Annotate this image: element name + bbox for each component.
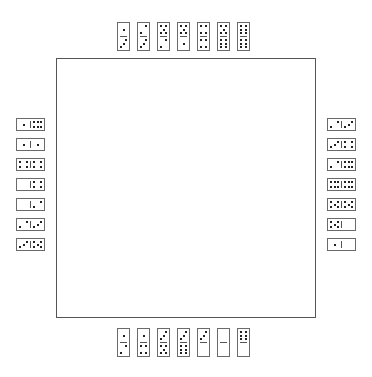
pip [33, 246, 35, 248]
domino-half-0 [342, 239, 355, 250]
domino-bottom-2-3-5[interactable] [157, 328, 170, 357]
pip [240, 29, 242, 31]
pip [344, 206, 346, 208]
pip [165, 331, 167, 333]
domino-half-3 [328, 139, 341, 150]
pip [337, 161, 339, 163]
pip [245, 39, 247, 41]
pip [245, 331, 247, 333]
domino-bottom-1-1-4[interactable] [137, 328, 150, 357]
pip [220, 25, 222, 27]
domino-right-5-5-0[interactable] [327, 218, 356, 231]
domino-right-6-1-0[interactable] [327, 238, 356, 251]
domino-top-4-4-4[interactable] [197, 22, 210, 51]
pip [180, 338, 182, 340]
pip [240, 331, 242, 333]
domino-right-3-6-6[interactable] [327, 178, 356, 191]
domino-half-0 [238, 343, 249, 356]
domino-right-2-2-6[interactable] [327, 158, 356, 171]
pip [33, 186, 35, 188]
pip [330, 146, 332, 148]
pip [245, 46, 247, 48]
pip [344, 161, 346, 163]
domino-bottom-4-3-0[interactable] [197, 328, 210, 357]
pip [40, 126, 42, 128]
domino-half-4 [31, 159, 44, 170]
pip [145, 352, 147, 354]
game-board[interactable] [56, 58, 316, 318]
domino-top-5-5-6[interactable] [217, 22, 230, 51]
domino-half-6 [342, 159, 355, 170]
domino-bottom-6-6-0[interactable] [237, 328, 250, 357]
pip [330, 126, 332, 128]
pip [225, 25, 227, 27]
domino-top-1-2-3[interactable] [137, 22, 150, 51]
pip [37, 121, 39, 123]
pip [344, 181, 346, 183]
domino-half-2 [158, 37, 169, 50]
pip [160, 46, 162, 48]
domino-half-0 [198, 343, 209, 356]
domino-half-1 [31, 139, 44, 150]
domino-bottom-0-1-2[interactable] [117, 328, 130, 357]
pip [163, 335, 165, 337]
pip [330, 206, 332, 208]
pip [33, 226, 35, 228]
domino-half-1 [178, 37, 189, 50]
domino-top-0-1-3[interactable] [117, 22, 130, 51]
pip [245, 43, 247, 45]
domino-half-6 [218, 37, 229, 50]
domino-half-1 [118, 23, 129, 36]
pip [351, 201, 353, 203]
domino-left-0-1-6[interactable] [16, 118, 45, 131]
pip [348, 166, 350, 168]
pip [26, 241, 28, 243]
domino-bottom-5-0-0[interactable] [217, 328, 230, 357]
pip [330, 186, 332, 188]
domino-half-4 [138, 343, 149, 356]
pip [240, 39, 242, 41]
pip [205, 32, 207, 34]
domino-half-0 [218, 343, 229, 356]
domino-half-6 [238, 23, 249, 36]
domino-half-4 [31, 179, 44, 190]
pip [163, 349, 165, 351]
pip [330, 166, 332, 168]
domino-half-6 [328, 179, 341, 190]
domino-half-1 [17, 119, 30, 130]
domino-half-5 [158, 23, 169, 36]
domino-left-4-0-2[interactable] [16, 198, 45, 211]
domino-left-5-2-3[interactable] [16, 218, 45, 231]
domino-left-2-4-4[interactable] [16, 158, 45, 171]
domino-right-0-2-3[interactable] [327, 118, 356, 131]
domino-half-3 [342, 119, 355, 130]
pip [140, 352, 142, 354]
domino-left-1-1-1[interactable] [16, 138, 45, 151]
domino-top-3-5-1[interactable] [177, 22, 190, 51]
domino-half-3 [138, 37, 149, 50]
pip [40, 221, 42, 223]
domino-bottom-3-3-6[interactable] [177, 328, 190, 357]
pip [205, 39, 207, 41]
pip [37, 224, 39, 226]
pip [245, 25, 247, 27]
pip [334, 144, 336, 146]
domino-half-3 [198, 329, 209, 342]
pip [180, 352, 182, 354]
domino-half-5 [328, 219, 341, 230]
pip [180, 25, 182, 27]
domino-half-6 [238, 329, 249, 342]
domino-top-2-5-2[interactable] [157, 22, 170, 51]
domino-half-6 [31, 119, 44, 130]
domino-right-1-3-4[interactable] [327, 138, 356, 151]
pip [245, 338, 247, 340]
domino-right-4-5-5[interactable] [327, 198, 356, 211]
pip [225, 43, 227, 45]
pip [40, 166, 42, 168]
pip [240, 32, 242, 34]
domino-top-6-6-6[interactable] [237, 22, 250, 51]
pip [334, 186, 336, 188]
pip [337, 206, 339, 208]
domino-left-3-0-4[interactable] [16, 178, 45, 191]
domino-left-6-3-5[interactable] [16, 238, 45, 251]
